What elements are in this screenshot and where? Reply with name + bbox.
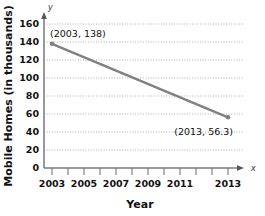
y-axis-variable-label: y xyxy=(47,3,53,12)
y-tick-label: 0 xyxy=(32,162,39,173)
y-axis xyxy=(41,12,47,168)
y-axis-title: Mobile Homes (in thousands) xyxy=(2,5,15,186)
data-series-mobile-homes xyxy=(50,42,231,120)
line-chart: 0 20 40 60 80 100 120 140 160 2003 2005 … xyxy=(0,0,265,216)
chart-figure: 0 20 40 60 80 100 120 140 160 2003 2005 … xyxy=(0,0,265,216)
x-tick-label: 2003 xyxy=(39,178,65,189)
y-tick-label: 140 xyxy=(19,36,39,47)
y-tick-label: 20 xyxy=(26,144,40,155)
y-tick-label: 80 xyxy=(26,90,40,101)
x-tick-labels: 2003 2005 2007 2009 2011 2013 xyxy=(39,178,241,189)
data-point-2013 xyxy=(226,115,231,120)
y-tick-label: 160 xyxy=(19,18,39,29)
x-axis-ticks xyxy=(52,168,228,175)
x-axis xyxy=(44,165,244,171)
annotation-point-2013: (2013, 56.3) xyxy=(174,126,233,137)
x-tick-label: 2009 xyxy=(135,178,161,189)
y-tick-labels: 0 20 40 60 80 100 120 140 160 xyxy=(19,18,39,173)
y-tick-label: 120 xyxy=(19,54,39,65)
annotation-point-2003: (2003, 138) xyxy=(50,28,106,39)
x-tick-label: 2005 xyxy=(71,178,97,189)
data-point-2003 xyxy=(50,42,55,47)
y-tick-label: 60 xyxy=(26,108,40,119)
x-tick-label: 2007 xyxy=(103,178,129,189)
y-tick-label: 100 xyxy=(19,72,39,83)
y-tick-label: 40 xyxy=(26,126,40,137)
x-tick-label: 2013 xyxy=(215,178,241,189)
x-axis-title: Year xyxy=(125,198,154,211)
gridlines xyxy=(44,24,243,168)
x-axis-variable-label: x xyxy=(250,164,256,173)
x-tick-label: 2011 xyxy=(167,178,193,189)
